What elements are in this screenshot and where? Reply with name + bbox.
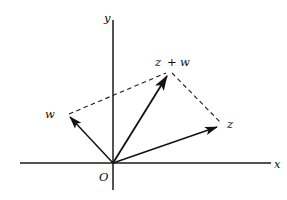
y-axis-label: y [103, 11, 111, 25]
sum-label-right-term: w [180, 55, 190, 69]
origin-label: O [99, 170, 109, 184]
vector-label-w: w [45, 107, 55, 121]
vector-addition-figure: y x O w z z + w [0, 0, 287, 200]
sum-label-left-term: z [154, 55, 162, 69]
figure-background [0, 0, 287, 200]
vector-diagram-canvas: y x O w z z + w [0, 0, 287, 200]
x-axis-label: x [274, 157, 281, 171]
sum-label-operator: + [167, 55, 177, 69]
vector-label-z-plus-w: z + w [154, 55, 190, 69]
vector-label-z: z [226, 117, 234, 131]
